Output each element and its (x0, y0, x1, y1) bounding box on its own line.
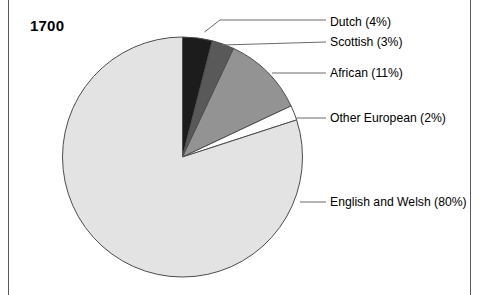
slice-label-english-and-welsh: English and Welsh (80%) (330, 196, 467, 208)
slice-label-other-european: Other European (2%) (330, 112, 446, 124)
pie-slice-group (63, 37, 303, 277)
pie-diagram (0, 0, 490, 295)
leader-line-scottish (222, 42, 326, 45)
slice-label-african: African (11%) (330, 67, 403, 79)
slice-label-scottish: Scottish (3%) (330, 36, 402, 48)
pie-chart-figure: 1700 Dutch (4%)Scottish (3%)African (11%… (0, 0, 490, 295)
leader-line-dutch (205, 20, 327, 32)
slice-label-dutch: Dutch (4%) (330, 16, 391, 28)
